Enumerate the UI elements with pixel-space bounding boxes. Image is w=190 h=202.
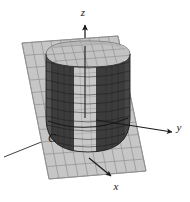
x-axis-label: x [113, 180, 119, 192]
shaded-cylinder [44, 38, 134, 156]
figure-root: z [0, 0, 190, 202]
y-axis-label: y [176, 121, 182, 133]
figure-canvas: z [0, 0, 190, 202]
z-axis-label: z [80, 6, 86, 18]
curve-label-c: C [48, 131, 57, 145]
